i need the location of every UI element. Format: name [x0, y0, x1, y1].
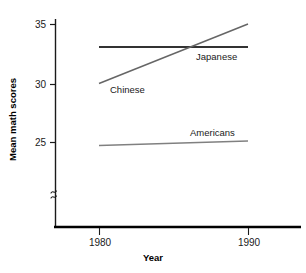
series-line-americans — [99, 141, 248, 146]
y-axis-title-text: Mean math scores — [8, 78, 18, 161]
y-axis-title: Mean math scores — [8, 64, 18, 78]
y-tick-label-25: 25 — [26, 138, 46, 148]
series-label-chinese: Chinese — [110, 85, 145, 95]
x-tick-label-1980: 1980 — [74, 238, 126, 248]
x-axis-title: Year — [0, 253, 306, 263]
x-tick-label-1990: 1990 — [223, 238, 275, 248]
y-tick-label-35: 35 — [26, 20, 46, 30]
series-label-japanese: Japanese — [196, 52, 237, 62]
series-label-americans: Americans — [190, 128, 235, 138]
line-chart: 35 30 25 1980 1990 Japanese Chinese Amer… — [0, 0, 306, 273]
y-tick-label-30: 30 — [26, 80, 46, 90]
